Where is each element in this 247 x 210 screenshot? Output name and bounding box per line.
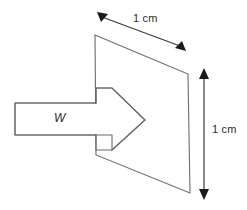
top-dimension-arrowhead-right xyxy=(175,41,186,51)
right-dimension-arrowhead-top xyxy=(199,68,209,79)
block-arrow-shape xyxy=(15,88,145,150)
right-dimension-arrowhead-bottom xyxy=(199,189,209,200)
figure-canvas: 1 cm 1 cm W xyxy=(0,0,247,210)
top-dimension-label: 1 cm xyxy=(133,12,158,24)
figure-drawing xyxy=(0,0,247,210)
arrow-upper-edge xyxy=(15,88,112,103)
square-plate-shape xyxy=(95,35,190,193)
arrow-w-label: W xyxy=(54,111,66,125)
arrow-head-edges xyxy=(112,88,145,150)
right-dimension-label: 1 cm xyxy=(212,123,237,135)
top-dimension-arrowhead-left xyxy=(97,12,108,22)
arrow-lower-edge xyxy=(15,135,112,150)
arrow-plate-overlap-mask xyxy=(90,104,103,134)
